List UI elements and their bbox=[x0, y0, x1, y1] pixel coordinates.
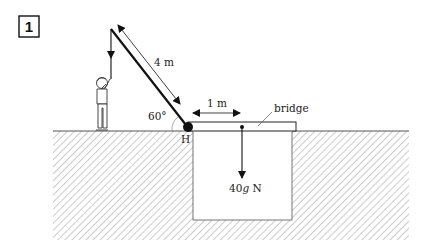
problem-number: 1 bbox=[25, 18, 33, 35]
weight-value: 40 bbox=[229, 182, 242, 194]
distance-label: 1 m bbox=[207, 97, 227, 109]
problem-number-box: 1 bbox=[19, 16, 39, 37]
hinge-label: H bbox=[181, 133, 190, 145]
angle-label: 60° bbox=[148, 110, 167, 122]
rope-length-label: 4 m bbox=[154, 56, 174, 68]
person-figure bbox=[96, 78, 112, 131]
bridge-label: bridge bbox=[274, 102, 309, 114]
weight-unit: N bbox=[249, 182, 262, 194]
drawbridge-diagram: 1 4 m bbox=[0, 0, 425, 247]
weight-label: 40g N bbox=[229, 182, 262, 194]
angle-arc bbox=[172, 117, 178, 131]
hinge-point bbox=[183, 122, 193, 132]
